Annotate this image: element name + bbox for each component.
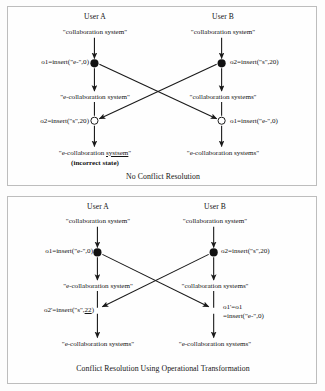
panel-bottom-right-op2-line1: o1'=o1: [223, 303, 242, 312]
node-op1-right-filled: [218, 59, 226, 67]
panel-bottom-right-final-state: "e-collaboration systems": [179, 341, 251, 349]
op2-transformed-position: 22: [85, 306, 92, 314]
panel-no-conflict-resolution: User A User B "collaboration system" o1=…: [7, 6, 317, 186]
panel-bottom-right-initial-state: "collaboration system": [183, 218, 247, 226]
final-state-typo: systsem: [106, 149, 128, 157]
figure-root: User A User B "collaboration system" o1=…: [0, 0, 325, 391]
op2-prefix: o2'=insert("s",: [44, 306, 85, 314]
panel-top-right-initial-state: "collaboration system": [191, 29, 255, 37]
panel-bottom-left-final-state: "e-collaboration systems": [62, 341, 134, 349]
panel-top-left-op1-label: o1=insert("e-",0): [41, 59, 89, 67]
panel-top-right-op1-label: o2=insert("s",20): [230, 59, 279, 67]
panel-bottom-left-op2-label: o2'=insert("s",22): [44, 307, 94, 315]
panel-bottom-right-mid-state: "collaboration systems": [182, 283, 249, 291]
panel-top-right-mid-state: "collaboration systems": [190, 94, 257, 102]
panel-top-left-initial-state: "collaboration system": [63, 29, 127, 37]
panel-bottom-right-op1-label: o2=insert("s",20): [221, 248, 270, 256]
panel-bottom-caption: Conflict Resolution Using Operational Tr…: [76, 365, 249, 374]
panel-bottom-right-op2-line2: =insert("e-",0): [223, 312, 264, 321]
panel-top-user-a-heading: User A: [84, 13, 106, 22]
node-op1-left-filled: [90, 59, 98, 67]
panel-top-right-final-state: "e-collaboration systems": [187, 150, 259, 158]
node-op1-right-filled: [210, 248, 218, 256]
op2-suffix: ): [92, 306, 94, 314]
final-state-suffix: ": [128, 149, 131, 157]
panel-top-left-op2-label: o2=insert("s",20): [40, 118, 89, 126]
panel-top-left-mid-state: "e-collaboration system": [60, 94, 130, 102]
node-op2-right-open: [218, 117, 225, 124]
panel-operational-transformation: User A User B "collaboration system" o1=…: [7, 196, 317, 384]
panel-top-graphics: [8, 7, 316, 185]
node-op1-left-filled: [93, 248, 101, 256]
final-state-prefix: "e-collaboration: [59, 149, 106, 157]
panel-bottom-graphics: [8, 197, 316, 383]
panel-top-caption: No Conflict Resolution: [126, 173, 200, 182]
panel-bottom-user-a-heading: User A: [87, 203, 109, 212]
panel-bottom-left-op1-label: o1=insert("e-",0): [45, 248, 93, 256]
panel-top-left-final-state: "e-collaboration systsem": [59, 150, 132, 158]
panel-bottom-left-initial-state: "collaboration system": [66, 218, 130, 226]
panel-top-right-op2-label: o1=insert("e-",0): [230, 118, 278, 126]
node-op2-left-open: [91, 117, 98, 124]
panel-top-left-final-note: (incorrect state): [71, 160, 119, 168]
panel-bottom-user-b-heading: User B: [204, 203, 226, 212]
panel-bottom-left-mid-state: "e-collaboration system": [63, 283, 133, 291]
panel-top-user-b-heading: User B: [212, 13, 234, 22]
